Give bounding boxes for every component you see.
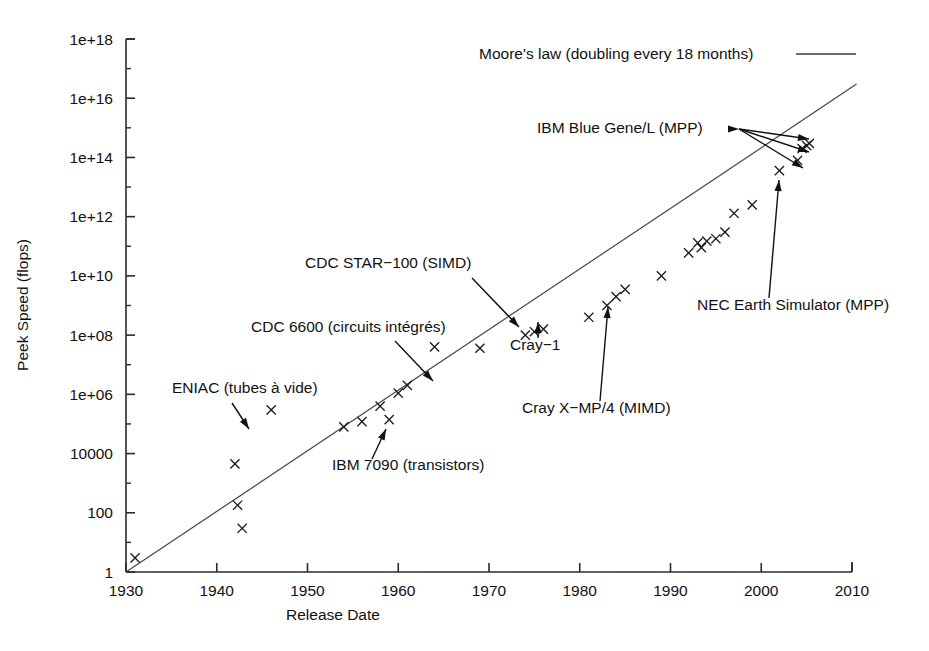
data-point-marker <box>657 271 666 280</box>
y-tick-label: 1e+10 <box>69 267 113 284</box>
x-tick-label: 1960 <box>381 582 416 599</box>
annotation-cdc-star-100-leader <box>472 278 519 327</box>
y-tick-label: 10000 <box>70 445 113 462</box>
data-point-marker <box>130 553 139 562</box>
data-point-marker <box>267 405 276 414</box>
annotation-label-ibm-blue-gene-l: IBM Blue Gene/L (MPP) <box>537 119 703 136</box>
x-tick-label: 1950 <box>290 582 325 599</box>
annotation-nec-earth-simulator-leader <box>769 180 782 298</box>
x-tick-label: 2000 <box>744 582 779 599</box>
annotation-nec-earth-simulator-arrowhead <box>774 180 781 191</box>
x-tick-label: 1930 <box>109 582 144 599</box>
chart-canvas: 1100100001e+061e+081e+101e+121e+141e+161… <box>0 0 929 651</box>
annotation-eniac-leader <box>232 403 249 429</box>
legend-group: Moore's law (doubling every 18 months) <box>479 45 856 62</box>
data-point-marker <box>684 248 693 257</box>
annotation-eniac-arrowhead <box>240 418 249 429</box>
legend-label: Moore's law (doubling every 18 months) <box>479 45 753 62</box>
chart-figure: 1100100001e+061e+081e+101e+121e+141e+161… <box>0 0 929 651</box>
data-point-marker <box>475 344 484 353</box>
data-point-marker <box>385 415 394 424</box>
y-tick-label: 100 <box>87 504 113 521</box>
annotation-cray-xmp4-leader <box>600 307 611 401</box>
data-point-marker <box>702 236 711 245</box>
x-tick-label: 1940 <box>200 582 235 599</box>
x-tick-label: 1980 <box>563 582 598 599</box>
x-tick-label: 1970 <box>472 582 507 599</box>
data-point-marker <box>230 459 239 468</box>
data-point-marker <box>693 238 702 247</box>
annotation-label-cdc-star-100: CDC STAR−100 (SIMD) <box>305 254 471 271</box>
annotation-ibm-blue-gene-l-arrowhead <box>728 125 739 132</box>
annotation-label-nec-earth-simulator: NEC Earth Simulator (MPP) <box>697 296 889 313</box>
annotation-ibm-blue-gene-l-leader <box>728 125 739 132</box>
data-point-marker <box>357 417 366 426</box>
annotation-ibm-7090-leader <box>372 429 386 459</box>
data-point-marker <box>697 243 706 252</box>
data-point-marker <box>729 209 738 218</box>
y-tick-label: 1e+16 <box>69 90 113 107</box>
y-tick-label: 1e+12 <box>69 208 113 225</box>
data-point-marker <box>805 139 814 148</box>
y-tick-label: 1e+06 <box>69 386 113 403</box>
data-point-marker <box>711 234 720 243</box>
data-point-marker <box>748 200 757 209</box>
y-tick-label: 1e+18 <box>69 31 113 48</box>
data-point-marker <box>611 292 620 301</box>
data-point-marker <box>233 501 242 510</box>
data-point-marker <box>775 166 784 175</box>
trend-line-group <box>126 84 857 572</box>
y-tick-label: 1e+14 <box>69 149 113 166</box>
x-tick-label: 1990 <box>653 582 688 599</box>
annotation-cray-1-arrowhead <box>534 322 541 333</box>
x-axis-title: Release Date <box>286 606 380 623</box>
annotation-label-cray-xmp4: Cray X−MP/4 (MIMD) <box>522 399 671 416</box>
data-point-marker <box>621 285 630 294</box>
annotation-label-ibm-7090: IBM 7090 (transistors) <box>332 456 484 473</box>
data-point-marker <box>238 524 247 533</box>
x-tick-label: 2010 <box>835 582 870 599</box>
tick-label-group: 1100100001e+061e+081e+101e+121e+141e+161… <box>69 31 869 600</box>
y-axis-title: Peek Speed (flops) <box>14 239 31 371</box>
moores-law-trend-line <box>126 84 857 572</box>
y-tick-label: 1e+08 <box>69 327 113 344</box>
y-tick-label: 1 <box>104 564 113 581</box>
data-point-marker <box>403 381 412 390</box>
annotation-ibm-7090-arrowhead <box>378 429 386 440</box>
annotation-ibm-blue-gene-l-leader <box>739 129 803 168</box>
axis-title-group: Release Date Peek Speed (flops) <box>14 239 380 623</box>
data-point-marker <box>430 342 439 351</box>
annotation-ibm-blue-gene-l-arrowhead <box>798 134 809 141</box>
annotation-label-cray-1: Cray−1 <box>510 336 560 353</box>
annotation-label-eniac: ENIAC (tubes à vide) <box>172 379 318 396</box>
data-point-marker <box>720 228 729 237</box>
annotation-label-cdc-6600: CDC 6600 (circuits intégrés) <box>251 318 446 335</box>
annotation-cdc-6600-leader <box>395 341 433 381</box>
data-point-marker <box>584 313 593 322</box>
data-point-marker <box>339 422 348 431</box>
data-point-group <box>130 139 813 563</box>
data-point-marker <box>602 301 611 310</box>
